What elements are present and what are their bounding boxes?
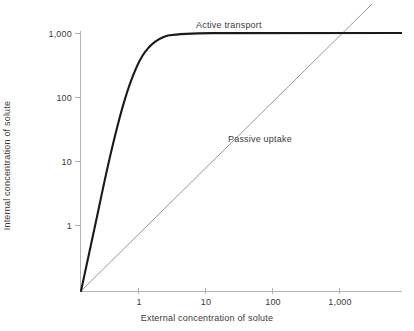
x-tick-label-100: 100 [265, 297, 281, 307]
y-axis-title: Internal concentration of solute [0, 0, 14, 331]
series-active-transport [81, 33, 402, 291]
y-tick-label-10: 10 [34, 157, 72, 167]
series-label-passive-uptake: Passive uptake [228, 134, 292, 144]
y-tick-label-1: 1 [34, 221, 72, 231]
y-tick-label-1000: 1,000 [34, 29, 72, 39]
series-label-active-transport: Active transport [196, 20, 262, 30]
series-passive-uptake [81, 4, 372, 291]
y-tick-label-100: 100 [34, 93, 72, 103]
chart-figure: 1,000 100 10 1 1 10 100 1,000 External c… [0, 0, 414, 331]
x-tick-label-1000: 1,000 [328, 297, 352, 307]
x-tick-label-10: 10 [201, 297, 211, 307]
x-tick-label-1: 1 [136, 297, 141, 307]
x-axis-title: External concentration of solute [0, 313, 414, 323]
